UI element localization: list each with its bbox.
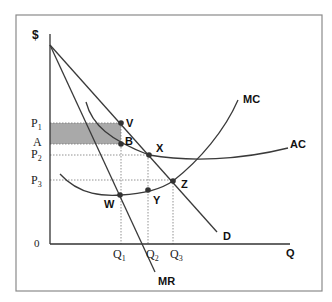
- y-label: Y: [153, 194, 161, 206]
- point-z: [170, 178, 176, 184]
- point-y: [145, 187, 151, 193]
- z-label: Z: [181, 178, 188, 190]
- x-axis-label: Q: [286, 247, 295, 259]
- b-label: B: [125, 135, 133, 147]
- point-b: [118, 141, 124, 147]
- mc-curve: [60, 100, 238, 195]
- points: [117, 120, 176, 198]
- mr-label: MR: [158, 275, 175, 287]
- d-label: D: [223, 230, 231, 242]
- point-v: [118, 120, 124, 126]
- p2-label: P2: [31, 147, 42, 163]
- v-label: V: [126, 117, 134, 129]
- monopoly-chart: $ Q 0 P1 A P2 P3 Q1 Q2 Q3 MC AC D MR V B…: [0, 0, 332, 302]
- mr-curve: [50, 45, 155, 272]
- q1-label: Q1: [113, 247, 126, 263]
- point-w: [117, 192, 123, 198]
- w-label: W: [104, 198, 115, 210]
- q3-label: Q3: [170, 247, 183, 263]
- y-axis-label: $: [32, 28, 39, 42]
- q2-label: Q2: [146, 247, 159, 263]
- origin-label: 0: [34, 237, 40, 249]
- point-x: [146, 152, 152, 158]
- ac-label: AC: [290, 138, 306, 150]
- p3-label: P3: [31, 173, 42, 189]
- profit-area: [50, 123, 121, 144]
- p1-label: P1: [31, 116, 42, 132]
- mc-label: MC: [243, 93, 260, 105]
- chart-frame: [16, 15, 322, 291]
- x-label: X: [156, 142, 164, 154]
